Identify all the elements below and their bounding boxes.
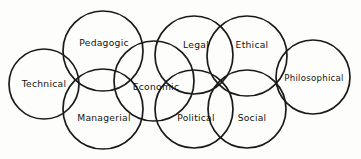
label-technical: Technical xyxy=(21,78,66,89)
circle-managerial xyxy=(63,69,143,149)
label-social: Social xyxy=(238,112,267,123)
label-political: Political xyxy=(177,112,215,123)
label-ethical: Ethical xyxy=(236,39,269,50)
venn-diagram: Technical Pedagogic Managerial Economic … xyxy=(0,0,361,159)
circle-social xyxy=(208,70,286,148)
label-pedagogic: Pedagogic xyxy=(79,37,128,48)
circle-pedagogic xyxy=(63,11,143,91)
circle-ethical xyxy=(207,16,287,96)
label-philosophical: Philosophical xyxy=(284,73,343,83)
venn-diagram-canvas: Technical Pedagogic Managerial Economic … xyxy=(0,0,361,159)
label-economic: Economic xyxy=(133,81,179,92)
label-managerial: Managerial xyxy=(77,112,131,123)
label-legal: Legal xyxy=(183,39,209,50)
